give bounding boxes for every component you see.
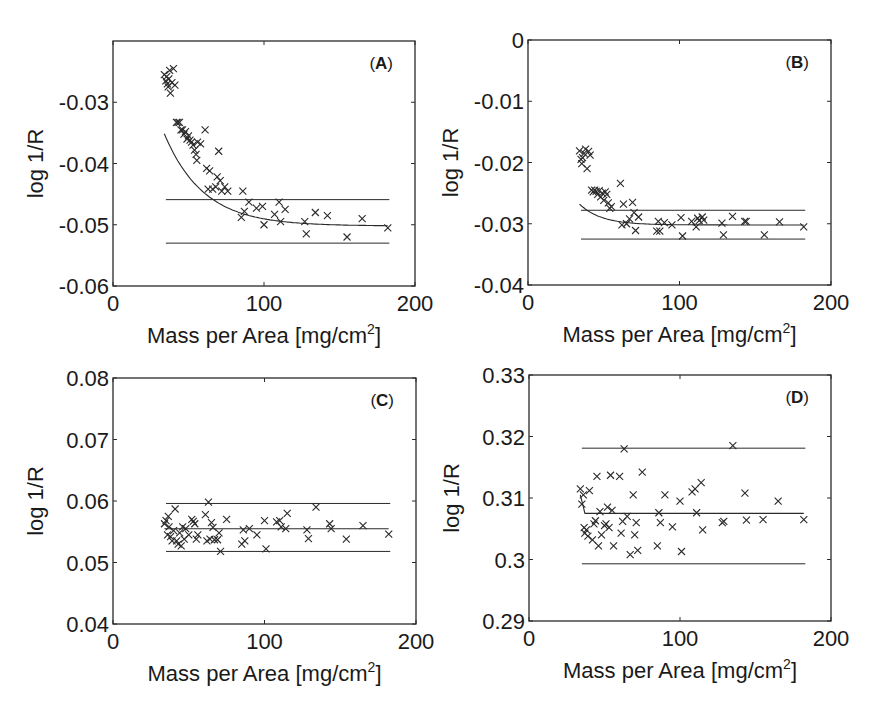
x-marker — [678, 214, 685, 221]
x-marker — [677, 498, 684, 505]
x-marker — [618, 530, 625, 537]
x-marker — [221, 183, 228, 190]
x-marker — [741, 490, 748, 497]
x-axis-title: Mass per Area [mg/cm2] — [563, 320, 797, 347]
x-marker — [598, 531, 605, 538]
x-marker — [635, 214, 642, 221]
x-marker — [634, 547, 641, 554]
x-marker — [655, 509, 662, 516]
x-marker — [259, 203, 266, 210]
x-tick-label: 100 — [661, 290, 698, 315]
x-marker — [678, 548, 685, 555]
x-marker — [174, 119, 181, 126]
x-marker — [359, 522, 366, 529]
y-tick-label: -0.06 — [59, 274, 109, 299]
x-marker — [639, 469, 646, 476]
x-marker — [657, 519, 664, 526]
x-marker — [167, 90, 174, 97]
plot-frame — [113, 378, 416, 624]
x-marker — [205, 499, 212, 506]
x-marker — [743, 517, 750, 524]
x-marker — [261, 221, 268, 228]
x-marker — [212, 183, 219, 190]
x-marker — [344, 234, 351, 241]
panel-b: 0100200-0.04-0.03-0.02-0.010log 1/RMass … — [438, 28, 849, 347]
y-tick-label: 0 — [512, 28, 524, 53]
y-tick-label: -0.03 — [474, 212, 524, 237]
panel-c: 01002000.040.050.060.070.08log 1/RMass p… — [23, 366, 434, 686]
x-tick-label: 100 — [246, 291, 283, 316]
x-marker — [692, 485, 699, 492]
x-marker — [313, 504, 320, 511]
plot-frame — [113, 41, 415, 286]
x-marker — [584, 533, 591, 540]
x-marker — [693, 509, 700, 516]
y-tick-label: -0.05 — [59, 213, 109, 238]
x-marker — [669, 523, 676, 530]
x-marker — [630, 491, 637, 498]
x-marker — [216, 529, 223, 536]
x-marker — [632, 227, 639, 234]
x-marker — [215, 148, 222, 155]
x-tick-label: 100 — [662, 626, 699, 651]
x-marker — [385, 531, 392, 538]
x-marker — [312, 209, 319, 216]
y-tick-label: -0.02 — [474, 151, 524, 176]
y-tick-label: 0.07 — [66, 428, 109, 453]
x-marker — [190, 518, 197, 525]
x-marker — [583, 526, 590, 533]
x-marker — [217, 177, 224, 184]
x-tick-label: 200 — [813, 626, 850, 651]
x-marker — [326, 520, 333, 527]
y-tick-label: -0.03 — [59, 90, 109, 115]
x-marker — [206, 167, 213, 174]
x-marker — [633, 519, 640, 526]
x-marker — [301, 218, 308, 225]
x-marker — [654, 542, 661, 549]
x-tick-label: 200 — [398, 629, 435, 654]
x-marker — [171, 82, 178, 89]
x-marker — [698, 479, 705, 486]
x-marker — [284, 510, 291, 517]
x-marker — [282, 206, 289, 213]
x-marker — [616, 473, 623, 480]
x-marker — [271, 211, 278, 218]
x-marker — [741, 218, 748, 225]
x-axis-title: Mass per Area [mg/cm2] — [148, 659, 382, 686]
x-tick-label: 100 — [246, 629, 283, 654]
x-marker — [172, 505, 179, 512]
x-marker — [593, 473, 600, 480]
x-marker — [775, 498, 782, 505]
x-marker — [303, 230, 310, 237]
x-marker — [608, 203, 615, 210]
x-marker — [743, 218, 750, 225]
x-marker — [303, 526, 310, 533]
x-marker — [661, 491, 668, 498]
x-marker — [324, 212, 331, 219]
x-marker — [624, 513, 631, 520]
panel-label: (A) — [369, 54, 393, 73]
x-marker — [800, 223, 807, 230]
x-marker — [629, 199, 636, 206]
y-axis-title: log 1/R — [23, 466, 48, 536]
y-tick-label: 0.32 — [482, 425, 525, 450]
y-tick-label: 0.31 — [482, 486, 525, 511]
figure: 0100200-0.06-0.05-0.04-0.03log 1/RMass p… — [0, 0, 881, 716]
x-marker — [776, 218, 783, 225]
x-tick-label: 200 — [813, 290, 850, 315]
x-marker — [193, 157, 200, 164]
x-marker — [700, 217, 707, 224]
x-marker — [178, 542, 185, 549]
x-marker — [621, 445, 628, 452]
y-tick-label: -0.04 — [474, 273, 524, 298]
x-marker — [596, 508, 603, 515]
y-axis-title: log 1/R — [23, 129, 48, 199]
x-marker — [610, 542, 617, 549]
x-marker — [720, 231, 727, 238]
x-marker — [595, 542, 602, 549]
x-marker — [384, 224, 391, 231]
x-marker — [627, 551, 634, 558]
y-tick-label: 0.33 — [482, 363, 525, 388]
x-marker — [631, 531, 638, 538]
x-marker — [239, 188, 246, 195]
